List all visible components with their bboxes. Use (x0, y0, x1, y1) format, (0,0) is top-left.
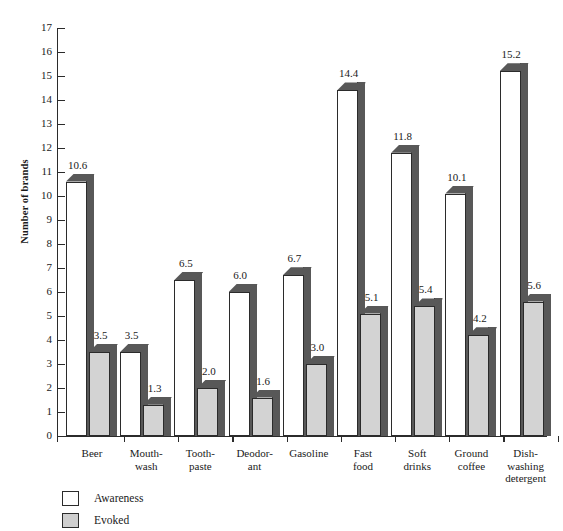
y-axis-tick-value: 3 (32, 358, 52, 369)
y-axis-tick-value: 6 (32, 286, 52, 297)
bar-evoked (143, 405, 164, 436)
y-axis-tick (57, 124, 65, 125)
y-axis-tick (57, 292, 65, 293)
y-axis-tick (57, 196, 65, 197)
bar-evoked (197, 388, 218, 436)
x-axis-line (57, 436, 547, 437)
x-axis-tick (558, 436, 559, 442)
bar-awareness-value-label: 6.5 (168, 258, 203, 269)
bar-evoked-value-label: 5.4 (408, 284, 443, 295)
y-axis-tick-value: 0 (32, 430, 52, 441)
y-axis-tick-value: 11 (32, 166, 52, 177)
y-axis-tick (57, 100, 65, 101)
bar-evoked-value-label: 2.0 (191, 366, 226, 377)
y-axis-tick-value: 10 (32, 190, 52, 201)
bar-awareness (337, 90, 358, 436)
bar-awareness-value-label: 11.8 (385, 131, 420, 142)
x-axis-tick (232, 436, 233, 442)
bar-evoked (523, 302, 544, 436)
x-axis-tick (124, 436, 125, 442)
y-axis-tick (57, 340, 65, 341)
y-axis-tick (57, 388, 65, 389)
y-axis-tick (57, 148, 65, 149)
bar-evoked-value-label: 5.6 (517, 280, 552, 291)
bar-awareness (174, 280, 195, 436)
bar-awareness (500, 71, 521, 436)
legend-label-evoked: Evoked (94, 513, 129, 528)
y-axis-tick (57, 76, 65, 77)
bar-evoked-side-face (380, 306, 388, 436)
y-axis-tick (57, 316, 65, 317)
bar-awareness (283, 275, 304, 436)
x-axis-tick (449, 436, 450, 442)
y-axis-tick (57, 436, 65, 437)
bar-evoked (468, 335, 489, 436)
bar-evoked-value-label: 5.1 (354, 292, 389, 303)
bar-evoked-side-face (543, 294, 551, 436)
bar-awareness-value-label: 14.4 (331, 68, 366, 79)
bar-evoked-value-label: 3.5 (83, 330, 118, 341)
bar-evoked-side-face (488, 327, 496, 436)
bar-evoked-value-label: 3.0 (300, 342, 335, 353)
y-axis-tick (57, 412, 65, 413)
bar-awareness-value-label: 6.7 (277, 253, 312, 264)
bar-evoked-side-face (434, 298, 442, 436)
bar-evoked-side-face (109, 344, 117, 436)
y-axis-tick-value: 17 (32, 22, 52, 33)
x-axis-tick (395, 436, 396, 442)
y-axis-tick-value: 5 (32, 310, 52, 321)
bar-evoked (252, 398, 273, 436)
bar-awareness-value-label: 15.2 (494, 49, 529, 60)
bar-awareness-value-label: 10.1 (439, 172, 474, 183)
y-axis-tick-value: 14 (32, 94, 52, 105)
bar-evoked-value-label: 4.2 (462, 313, 497, 324)
y-axis-tick-value: 2 (32, 382, 52, 393)
bar-evoked-value-label: 1.6 (246, 376, 281, 387)
y-axis-tick (57, 52, 65, 53)
x-axis-tick (341, 436, 342, 442)
bar-evoked-side-face (217, 380, 225, 436)
bar-evoked (360, 314, 381, 436)
y-axis-tick-value: 15 (32, 70, 52, 81)
bar-awareness-value-label: 3.5 (114, 330, 149, 341)
bar-evoked (89, 352, 110, 436)
category-label-line: Dish- (489, 447, 563, 460)
y-axis-tick-value: 13 (32, 118, 52, 129)
y-axis-line (57, 28, 58, 437)
bar-awareness-value-label: 6.0 (223, 270, 258, 281)
bar-evoked-side-face (326, 356, 334, 436)
x-axis-tick (178, 436, 179, 442)
bar-evoked (414, 306, 435, 436)
y-axis-tick-value: 9 (32, 214, 52, 225)
y-axis-tick-value: 12 (32, 142, 52, 153)
y-axis-tick-value: 8 (32, 238, 52, 249)
x-axis-tick (57, 436, 58, 442)
bar-awareness (229, 292, 250, 436)
y-axis-tick (57, 220, 65, 221)
y-axis-tick-value: 7 (32, 262, 52, 273)
category-label-line: washing (489, 460, 563, 473)
y-axis-tick (57, 28, 65, 29)
y-axis-tick (57, 268, 65, 269)
gray-square-icon (62, 513, 79, 528)
y-axis-title: Number of brands (19, 142, 30, 262)
category-label-line: ant (218, 460, 292, 473)
y-axis-tick-value: 16 (32, 46, 52, 57)
x-axis-tick (287, 436, 288, 442)
x-axis-category-label: Dish-washingdetergent (489, 447, 563, 485)
bar-awareness (120, 352, 141, 436)
bar-chart: Number of brands 01234567891011121314151… (0, 0, 563, 531)
category-label-line: detergent (489, 472, 563, 485)
y-axis-tick-value: 4 (32, 334, 52, 345)
bar-awareness (66, 182, 87, 436)
y-axis-tick (57, 172, 65, 173)
bar-evoked (306, 364, 327, 436)
y-axis-tick (57, 364, 65, 365)
x-axis-tick (503, 436, 504, 442)
y-axis-tick-value: 1 (32, 406, 52, 417)
legend-label-awareness: Awareness (94, 491, 143, 506)
white-square-icon (62, 491, 79, 506)
y-axis-tick (57, 244, 65, 245)
bar-awareness-value-label: 10.6 (60, 160, 95, 171)
bar-evoked-value-label: 1.3 (137, 383, 172, 394)
